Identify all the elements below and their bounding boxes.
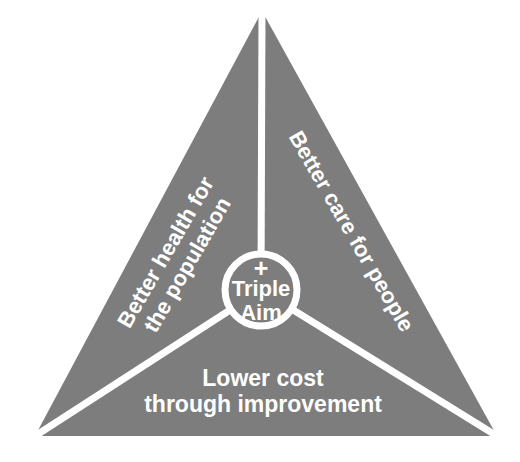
divider-line-top bbox=[261, 11, 262, 290]
center-label-line2: Aim bbox=[240, 300, 282, 325]
triple-aim-diagram: + Triple Aim Better health for the popul… bbox=[0, 0, 520, 462]
bottom-label-line2: through improvement bbox=[144, 391, 382, 417]
center-label-line1: Triple bbox=[232, 276, 291, 301]
bottom-label-line1: Lower cost bbox=[202, 365, 324, 391]
triple-aim-figure: + Triple Aim Better health for the popul… bbox=[0, 0, 520, 462]
